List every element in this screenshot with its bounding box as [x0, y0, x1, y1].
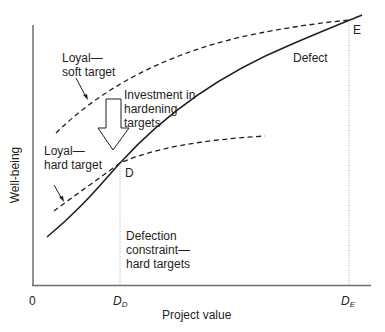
soft-target-pointer-arrowhead-icon: [83, 94, 88, 100]
constraint-label-3: hard targets: [126, 257, 190, 271]
constraint-label-1: Defection: [126, 229, 177, 243]
x-tick-dd: DD: [113, 294, 127, 312]
x-tick-de-sub: E: [350, 300, 355, 309]
investment-label-2: hardening: [124, 102, 177, 116]
investment-label-3: targets: [124, 116, 161, 130]
x-axis-title: Project value: [162, 308, 231, 322]
point-d-label: D: [125, 166, 134, 180]
x-tick-de: DE: [341, 294, 355, 312]
x-tick-dd-main: D: [113, 294, 122, 308]
defect-label: Defect: [293, 51, 328, 65]
soft-target-pointer-line: [76, 78, 86, 97]
loyal-hard-target-curve: [54, 136, 265, 211]
point-e-label: E: [353, 23, 361, 37]
origin-label: 0: [29, 294, 36, 308]
soft-target-label-2: soft target: [62, 65, 115, 79]
hard-target-label-1: Loyal—: [44, 144, 85, 158]
soft-target-label-1: Loyal—: [62, 51, 103, 65]
investment-label-1: Investment in: [124, 88, 195, 102]
x-tick-de-main: D: [341, 294, 350, 308]
constraint-label-2: constraint—: [126, 243, 190, 257]
y-axis-title: Well-being: [8, 147, 22, 203]
x-tick-dd-sub: D: [122, 300, 128, 309]
hard-target-pointer-arrowhead-icon: [59, 196, 64, 202]
defect-curve: [47, 15, 362, 237]
hard-target-label-2: hard target: [44, 158, 102, 172]
